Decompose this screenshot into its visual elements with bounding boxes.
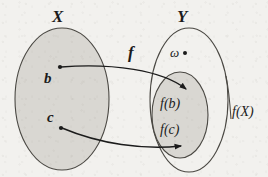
label-element-c: c bbox=[47, 110, 54, 125]
label-image-c: f(c) bbox=[160, 123, 179, 137]
label-map-f: f bbox=[128, 44, 134, 61]
label-image-b: f(b) bbox=[160, 97, 180, 111]
label-image-set-fx: f(X) bbox=[232, 105, 254, 119]
figure-canvas bbox=[0, 0, 268, 177]
label-set-y: Y bbox=[177, 8, 187, 25]
point-omega bbox=[183, 51, 187, 55]
set-mapping-figure: X Y f b c ω f(b) f(c) f(X) bbox=[0, 0, 268, 177]
set-ellipse-x bbox=[15, 28, 109, 170]
label-element-b: b bbox=[44, 71, 52, 86]
label-set-x: X bbox=[52, 8, 63, 25]
label-omega: ω bbox=[170, 46, 179, 59]
